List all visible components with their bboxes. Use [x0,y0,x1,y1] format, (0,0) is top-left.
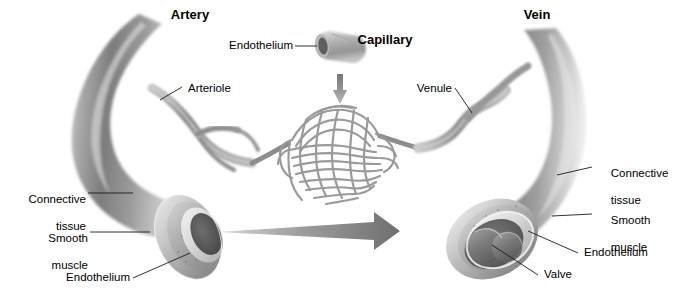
label-artery-muscle-line2: muscle [52,259,88,271]
label-venule: Venule [390,82,452,96]
heading-capillary: Capillary [330,33,440,47]
label-vein-valve: Valve [544,268,604,282]
label-capillary-endothelium: Endothelium [205,39,293,53]
label-artery-muscle-line1: Smooth [48,232,88,244]
label-artery-endothelium: Endothelium [44,271,130,285]
label-vein-connective-line1: Connective [611,167,669,179]
heading-vein: Vein [497,8,577,22]
label-vein-endothelium: Endothelium [584,246,674,260]
label-artery-connective-line1: Connective [28,193,86,205]
vascular-diagram-figure: Artery Capillary Vein Endothelium Arteri… [0,0,684,299]
label-vein-muscle-line1: Smooth [611,214,651,226]
label-arteriole: Arteriole [188,82,258,96]
heading-artery: Artery [150,8,230,22]
